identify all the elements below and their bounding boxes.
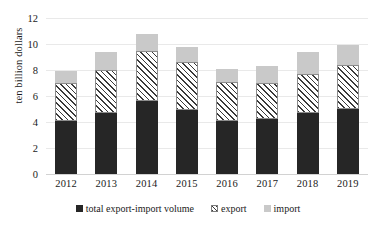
stacked-bar[interactable] (297, 52, 319, 174)
y-tick-label: 0 (33, 169, 38, 180)
bar-segment-export[interactable] (256, 83, 278, 119)
bar-segment-total-export-import-volume[interactable] (256, 119, 278, 174)
bar-segment-total-export-import-volume[interactable] (55, 121, 77, 174)
bar-segment-import[interactable] (337, 45, 359, 65)
bar-segment-export[interactable] (95, 70, 117, 113)
bar-segment-export[interactable] (216, 82, 238, 121)
bar-slot-2016[interactable] (207, 18, 247, 174)
legend-label: import (274, 203, 301, 214)
bar-slot-2014[interactable] (127, 18, 167, 174)
x-tick-label: 2016 (207, 178, 247, 189)
stacked-bar[interactable] (95, 52, 117, 174)
bar-segment-import[interactable] (216, 69, 238, 82)
x-tick-label: 2012 (46, 178, 86, 189)
y-axis-ticks: 121086420 (0, 18, 46, 174)
y-tick-label: 12 (28, 13, 39, 24)
total-swatch-icon (76, 205, 83, 212)
import-swatch-icon (264, 205, 271, 212)
x-tick-label: 2019 (328, 178, 368, 189)
bar-slot-2019[interactable] (328, 18, 368, 174)
bar-segment-import[interactable] (297, 52, 319, 74)
bar-segment-total-export-import-volume[interactable] (136, 101, 158, 174)
y-tick-label: 2 (33, 143, 38, 154)
bar-segment-total-export-import-volume[interactable] (216, 121, 238, 174)
plot-area (46, 18, 368, 174)
bar-segment-import[interactable] (176, 47, 198, 63)
stacked-bar[interactable] (216, 69, 238, 174)
x-tick-label: 2013 (86, 178, 126, 189)
bar-slot-2018[interactable] (288, 18, 328, 174)
stacked-bar[interactable] (55, 71, 77, 174)
legend-item[interactable]: export (211, 203, 247, 214)
stacked-bar[interactable] (337, 45, 359, 174)
bar-segment-export[interactable] (176, 62, 198, 110)
bar-segment-total-export-import-volume[interactable] (176, 110, 198, 174)
x-axis-ticks: 20122013201420152016201720182019 (46, 178, 368, 189)
bar-segment-total-export-import-volume[interactable] (337, 109, 359, 174)
x-tick-label: 2018 (288, 178, 328, 189)
stacked-bar-chart: ten billion dollars 121086420 2012201320… (0, 0, 376, 231)
gridline (46, 174, 368, 175)
bar-slot-2015[interactable] (167, 18, 207, 174)
stacked-bar[interactable] (176, 47, 198, 174)
legend-label: total export-import volume (86, 203, 194, 214)
legend-item[interactable]: import (264, 203, 301, 214)
bar-segment-export[interactable] (337, 65, 359, 109)
bar-segment-import[interactable] (256, 66, 278, 83)
bar-segment-total-export-import-volume[interactable] (297, 113, 319, 174)
bar-segment-export[interactable] (55, 83, 77, 121)
bar-group (46, 18, 368, 174)
legend-label: export (221, 203, 247, 214)
bar-slot-2012[interactable] (46, 18, 86, 174)
stacked-bar[interactable] (136, 34, 158, 174)
stacked-bar[interactable] (256, 66, 278, 174)
x-tick-label: 2015 (167, 178, 207, 189)
bar-slot-2017[interactable] (247, 18, 287, 174)
x-tick-label: 2017 (247, 178, 287, 189)
bar-segment-import[interactable] (55, 71, 77, 83)
bar-slot-2013[interactable] (86, 18, 126, 174)
bar-segment-export[interactable] (297, 74, 319, 113)
bar-segment-total-export-import-volume[interactable] (95, 113, 117, 174)
y-tick-label: 10 (28, 39, 39, 50)
bar-segment-import[interactable] (95, 52, 117, 70)
legend-item[interactable]: total export-import volume (76, 203, 194, 214)
y-tick-label: 6 (33, 91, 38, 102)
y-tick-label: 4 (33, 117, 38, 128)
y-tick-label: 8 (33, 65, 38, 76)
bar-segment-export[interactable] (136, 51, 158, 102)
x-tick-label: 2014 (127, 178, 167, 189)
chart-legend: total export-import volumeexportimport (0, 203, 376, 214)
export-swatch-icon (211, 205, 218, 212)
bar-segment-import[interactable] (136, 34, 158, 51)
